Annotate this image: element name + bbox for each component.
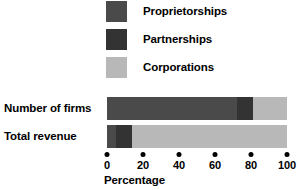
x-axis-tick-label: 0 [104,160,110,171]
x-axis-title: Percentage [104,175,165,187]
x-axis-tick-label: 100 [278,160,296,171]
x-axis-tick-label: 20 [137,160,149,171]
x-axis-tick-dot [249,152,254,157]
x-axis-tick-dot [141,152,146,157]
x-axis-tick-dot [105,152,110,157]
x-axis-tick-label: 80 [245,160,257,171]
x-axis-tick-dot [177,152,182,157]
x-axis-tick-dot [285,152,290,157]
x-axis-tick-label: 60 [209,160,221,171]
x-axis-tick-label: 40 [173,160,185,171]
x-axis-tick-dot [213,152,218,157]
x-axis: 020406080100 Percentage [0,0,298,190]
